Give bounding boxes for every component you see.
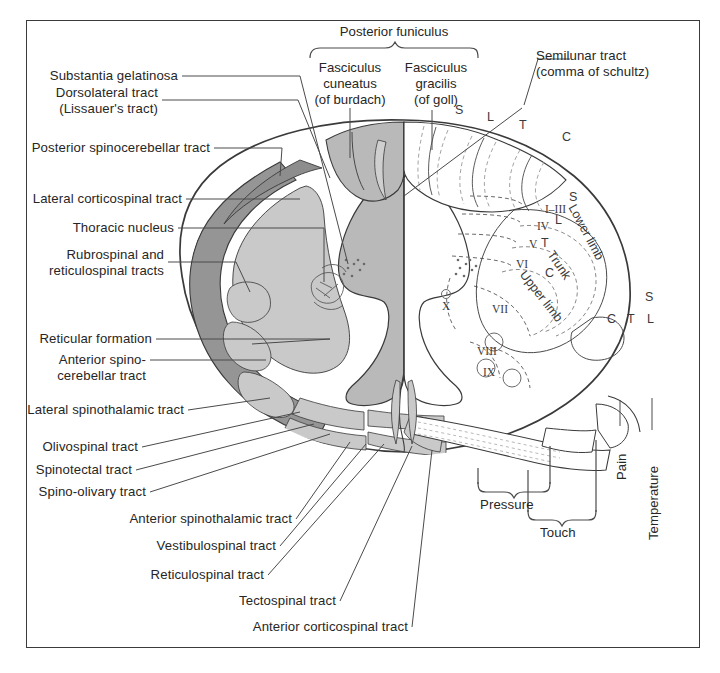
label-tectospinal-tract: Tectospinal tract <box>0 593 336 609</box>
posterior-funiculus-label: Posterior funiculus <box>318 24 470 40</box>
spinothalamic-letter-c: C <box>607 312 616 326</box>
label-lateral-corticospinal: Lateral corticospinal tract <box>0 191 182 207</box>
corticospinal-letter-t: T <box>541 236 549 250</box>
leader-anterior-spinothalamic <box>296 442 350 519</box>
segment-letter-c: C <box>562 130 571 144</box>
semilunar-tract-label: Semilunar tract (comma of schultz) <box>536 48 649 79</box>
figure-canvas: Posterior funiculus Fasciculus cuneatus … <box>0 0 720 673</box>
corticospinal-letter-c: C <box>545 266 554 280</box>
label-anterior-spinothalamic: Anterior spinothalamic tract <box>0 511 292 527</box>
label-dorsolateral-tract: Dorsolateral tract (Lissauer's tract) <box>0 85 158 116</box>
lamina-V: V <box>529 238 537 250</box>
label-touch: Touch <box>540 525 576 541</box>
segment-letter-t: T <box>519 118 527 132</box>
leader-reticulospinal <box>268 444 384 575</box>
lamina-IV: IV <box>537 220 549 232</box>
label-pressure: Pressure <box>480 497 534 513</box>
spinothalamic-letter-l: L <box>647 312 654 326</box>
leader-vestibulospinal <box>280 444 366 546</box>
leader-tectospinal <box>340 446 412 601</box>
brace-posterior-funiculus <box>310 42 478 58</box>
segment-letter-l: L <box>487 110 494 124</box>
segment-letter-s: S <box>455 103 463 117</box>
spinothalamic-letter-s: S <box>645 290 653 304</box>
label-thoracic-nucleus: Thoracic nucleus <box>0 220 174 236</box>
label-spinotectal-tract: Spinotectal tract <box>0 462 132 478</box>
fasciculus-cuneatus-label: Fasciculus cuneatus (of burdach) <box>302 60 398 108</box>
label-anterior-corticospinal: Anterior corticospinal tract <box>0 619 408 635</box>
brace-pressure <box>478 482 550 498</box>
leader-anterior-corticospinal <box>412 450 432 627</box>
label-temperature: Temperature <box>646 466 661 540</box>
lamina-IX: IX <box>483 366 495 378</box>
label-anterior-spinocerebellar: Anterior spino- cerebellar tract <box>0 352 146 383</box>
label-posterior-spinocerebellar: Posterior spinocerebellar tract <box>0 140 210 156</box>
pain-segment-outline <box>596 404 628 448</box>
label-substantia-gelatinosa: Substantia gelatinosa <box>0 68 178 84</box>
label-reticular-formation: Reticular formation <box>0 331 152 347</box>
label-rubrospinal-reticulospinal: Rubrospinal and reticulospinal tracts <box>0 247 164 278</box>
lamina-VIII: VIII <box>477 345 497 357</box>
corticospinal-letter-s: S <box>569 190 577 204</box>
label-olivospinal-tract: Olivospinal tract <box>0 439 138 455</box>
fasciculus-gracilis-label: Fasciculus gracilis (of goll) <box>394 60 478 108</box>
label-reticulospinal-tract: Reticulospinal tract <box>0 567 264 583</box>
brace-touch <box>528 510 596 526</box>
spinothalamic-letter-t: T <box>627 312 635 326</box>
corticospinal-letter-l: L <box>555 213 562 227</box>
label-vestibulospinal-tract: Vestibulospinal tract <box>0 538 276 554</box>
label-pain: Pain <box>614 454 629 480</box>
label-spino-olivary-tract: Spino-olivary tract <box>0 484 146 500</box>
leader-spinotectal <box>136 424 314 470</box>
label-lateral-spinothalamic: Lateral spinothalamic tract <box>0 402 184 418</box>
lamina-X: X <box>442 300 450 312</box>
rubrospinal-reticulospinal-shape <box>227 282 270 322</box>
lamina-VII: VII <box>492 303 508 315</box>
